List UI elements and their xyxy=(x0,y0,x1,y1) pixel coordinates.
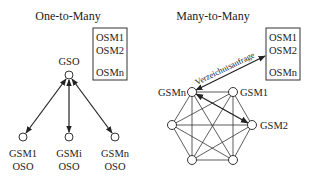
one-to-many-diagram: One-to-Many OSM1 OSM2 OSMn GSO GSM1 OSO … xyxy=(9,9,130,172)
diagram-canvas: One-to-Many OSM1 OSM2 OSMn GSO GSM1 OSO … xyxy=(0,0,311,181)
right-title: Many-to-Many xyxy=(176,9,249,23)
client-node-i xyxy=(65,133,73,141)
node-gsmn xyxy=(188,88,197,97)
node-gsm1-label: GSM1 xyxy=(240,87,268,98)
node-left xyxy=(168,121,177,130)
client-i-sublabel: OSO xyxy=(58,161,79,172)
client-1-label: GSM1 xyxy=(9,148,37,159)
client-i-label: GSMi xyxy=(56,148,82,159)
left-title: One-to-Many xyxy=(35,9,100,23)
directory-query-label: Verzeichnisanfrage xyxy=(193,49,256,87)
node-bottom-left xyxy=(188,156,197,165)
node-gsm2 xyxy=(248,121,257,130)
link-gso-gsmn xyxy=(72,79,112,133)
node-bottom-right xyxy=(229,156,238,165)
right-registry-item-2: OSM2 xyxy=(269,45,297,56)
server-label: GSO xyxy=(58,56,79,67)
node-gsm1 xyxy=(229,88,238,97)
link-gso-gsm1 xyxy=(26,79,66,133)
left-registry-item-n: OSMn xyxy=(96,67,125,78)
right-registry-item-1: OSM1 xyxy=(269,32,297,43)
server-node xyxy=(65,71,73,79)
left-registry-item-2: OSM2 xyxy=(96,45,124,56)
node-gsmn-label: GSMn xyxy=(158,87,187,98)
client-n-sublabel: OSO xyxy=(104,161,125,172)
many-to-many-diagram: Many-to-Many OSM1 OSM2 OSMn Verzeichnisa… xyxy=(158,9,300,165)
right-registry-item-n: OSMn xyxy=(269,67,298,78)
client-1-sublabel: OSO xyxy=(12,161,33,172)
client-node-1 xyxy=(19,133,27,141)
client-node-n xyxy=(111,133,119,141)
client-n-label: GSMn xyxy=(101,148,130,159)
left-registry-item-1: OSM1 xyxy=(96,32,124,43)
node-gsm2-label: GSM2 xyxy=(260,120,288,131)
